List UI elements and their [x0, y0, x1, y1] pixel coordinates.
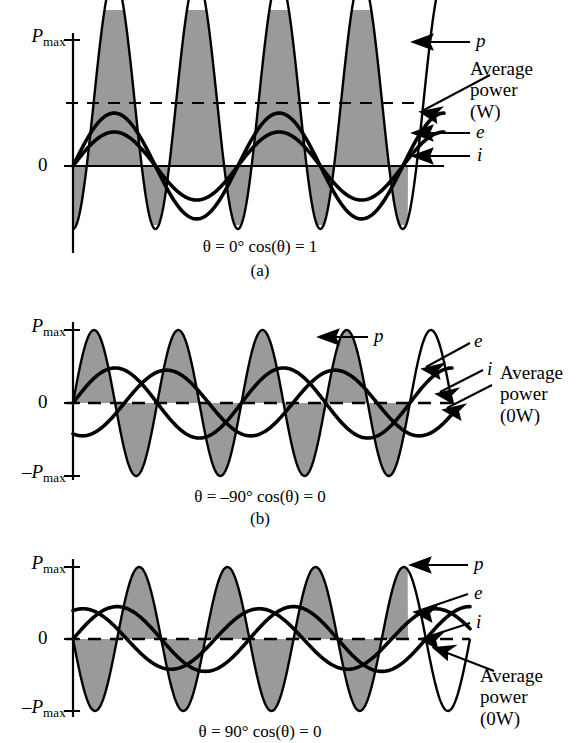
panel-letter-b: (b)	[115, 510, 405, 527]
average-power-label-a: Average power (W)	[470, 58, 570, 122]
panel-letter-a: (a)	[115, 262, 405, 279]
y-axis-label-pmax-a: Pmax	[8, 26, 66, 48]
caption-c: θ = 90° cos(θ) = 0	[115, 723, 405, 740]
panel-c: Pmax 0 –Pmax p e i Average power (0W) θ …	[0, 537, 580, 743]
y-axis-label-zero-b: 0	[38, 392, 48, 411]
curve-label-i-b: i	[487, 359, 492, 378]
panel-b: Pmax 0 –Pmax p e i Average power (0W) θ …	[0, 300, 580, 530]
curve-label-p-c: p	[474, 554, 484, 573]
curve-label-i-c: i	[476, 612, 481, 631]
curve-label-e-a: e	[476, 122, 484, 141]
curve-label-p-a: p	[476, 31, 486, 50]
caption-a: θ = 0° cos(θ) = 1	[115, 238, 405, 255]
y-axis-label-neg-pmax-c: –Pmax	[0, 697, 66, 719]
y-axis-label-neg-pmax-b: –Pmax	[0, 462, 66, 484]
y-axis-label-pmax-c: Pmax	[8, 553, 66, 575]
y-axis-label-pmax-b: Pmax	[8, 316, 66, 338]
panel-a: Pmax 0 p Average power (W) e i θ = 0° co…	[0, 0, 580, 290]
caption-b: θ = –90° cos(θ) = 0	[115, 488, 405, 505]
curve-label-e-c: e	[474, 583, 482, 602]
average-power-label-b: Average power (0W)	[500, 362, 580, 426]
y-axis-label-zero-a: 0	[38, 155, 48, 174]
figure-root: Pmax 0 p Average power (W) e i θ = 0° co…	[0, 0, 580, 743]
curve-label-p-b: p	[374, 326, 384, 345]
average-power-label-c: Average power (0W)	[480, 665, 580, 729]
y-axis-label-zero-c: 0	[38, 628, 48, 647]
curve-label-i-a: i	[477, 145, 482, 164]
curve-label-e-b: e	[474, 331, 482, 350]
